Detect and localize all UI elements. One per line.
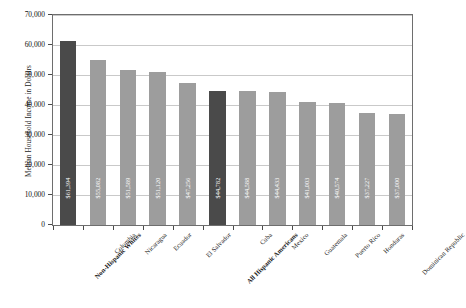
- y-tick-label: 40,000: [0, 100, 45, 109]
- bar-value-label: $37,227: [364, 177, 370, 198]
- bar[interactable]: $44,433: [269, 92, 286, 225]
- bar-slot: $44,782: [203, 15, 233, 225]
- bar-value-label: $37,000: [394, 177, 400, 198]
- x-tick-mark: [322, 226, 323, 230]
- bar-value-label: $44,782: [215, 177, 221, 198]
- bar[interactable]: $44,588: [239, 91, 256, 225]
- y-tick-mark: [48, 74, 52, 75]
- bar-value-label: $40,574: [334, 177, 340, 198]
- bar-value-label: $44,588: [244, 177, 250, 198]
- bar-slot: $55,082: [83, 15, 113, 225]
- x-tick-mark: [292, 226, 293, 230]
- y-tick-label: 0: [0, 220, 45, 229]
- x-tick-mark: [203, 226, 204, 230]
- bar[interactable]: $37,000: [389, 114, 406, 225]
- y-tick-label: 70,000: [0, 10, 45, 19]
- bars-container: $61,394$55,082$51,589$51,120$47,256$44,7…: [53, 15, 412, 225]
- x-axis-label: El Salvador: [204, 231, 232, 259]
- bar[interactable]: $40,574: [329, 103, 346, 225]
- bar-slot: $61,394: [53, 15, 83, 225]
- x-axis-label: Guatemala: [323, 231, 349, 257]
- bar-value-label: $47,256: [185, 177, 191, 198]
- x-tick-mark: [352, 226, 353, 230]
- bar-slot: $44,588: [233, 15, 263, 225]
- bar-slot: $37,227: [352, 15, 382, 225]
- bar[interactable]: $51,589: [120, 70, 137, 225]
- x-axis-label: Non-Hispanic Whites: [93, 231, 142, 280]
- x-axis-label: Puerto Rico: [354, 231, 382, 259]
- bar-slot: $44,433: [262, 15, 292, 225]
- bar-value-label: $61,394: [65, 177, 71, 198]
- y-tick-label: 20,000: [0, 160, 45, 169]
- x-tick-mark: [53, 226, 54, 230]
- bar[interactable]: $51,120: [149, 72, 166, 225]
- y-tick-label: 10,000: [0, 190, 45, 199]
- x-axis-label: Nicaragua: [143, 231, 168, 256]
- bar[interactable]: $61,394: [60, 41, 77, 225]
- x-axis-labels: Non-Hispanic WhitesColombiaNicaraguaEcua…: [53, 231, 412, 308]
- y-tick-mark: [48, 44, 52, 45]
- bar-slot: $41,003: [292, 15, 322, 225]
- bar[interactable]: $55,082: [90, 60, 107, 225]
- x-tick-mark: [262, 226, 263, 230]
- y-tick-mark: [48, 224, 52, 225]
- x-axis-ticks: [53, 226, 412, 230]
- bar-value-label: $41,003: [304, 177, 310, 198]
- bar[interactable]: $41,003: [299, 102, 316, 225]
- x-tick-mark: [233, 226, 234, 230]
- bar-slot: $47,256: [173, 15, 203, 225]
- y-tick-label: 60,000: [0, 40, 45, 49]
- y-tick-label: 50,000: [0, 70, 45, 79]
- bar[interactable]: $44,782: [209, 91, 226, 225]
- x-tick-mark: [173, 226, 174, 230]
- y-tick-mark: [48, 194, 52, 195]
- bar-slot: $51,120: [143, 15, 173, 225]
- x-axis-label: Honduras: [382, 231, 406, 255]
- y-tick-mark: [48, 164, 52, 165]
- bar-value-label: $55,082: [95, 177, 101, 198]
- x-axis-label: All Hispanic Americans: [245, 231, 299, 285]
- x-tick-mark: [143, 226, 144, 230]
- y-tick-label: 30,000: [0, 130, 45, 139]
- bar-slot: $40,574: [322, 15, 352, 225]
- bar[interactable]: $47,256: [179, 83, 196, 225]
- bar-slot: $37,000: [382, 15, 412, 225]
- x-axis-label: Dominican Republic: [421, 231, 466, 276]
- x-axis-label: Ecuador: [171, 231, 192, 252]
- x-tick-mark: [113, 226, 114, 230]
- bar-value-label: $51,589: [125, 177, 131, 198]
- bar-slot: $51,589: [113, 15, 143, 225]
- x-tick-mark: [83, 226, 84, 230]
- x-axis-label: Cuba: [259, 231, 274, 246]
- y-tick-mark: [48, 134, 52, 135]
- bar-value-label: $44,433: [274, 177, 280, 198]
- x-tick-mark: [382, 226, 383, 230]
- x-tick-mark: [412, 226, 413, 230]
- bar[interactable]: $37,227: [359, 113, 376, 225]
- bar-value-label: $51,120: [155, 177, 161, 198]
- y-tick-mark: [48, 104, 52, 105]
- y-axis-title: Median Household Income in Dollars: [25, 36, 33, 206]
- y-tick-mark: [48, 14, 52, 15]
